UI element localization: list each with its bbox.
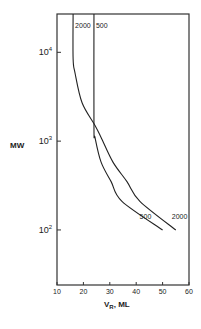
curve-top-label-500: 500 xyxy=(96,22,108,29)
x-tick-label: 50 xyxy=(159,288,167,295)
x-axis-label-suffix: , ML xyxy=(114,300,130,309)
x-axis-label: VR, ML xyxy=(104,300,130,310)
chart: 102030405060 102103104 20002000500500 MW… xyxy=(0,0,201,329)
x-tick-label: 40 xyxy=(132,288,140,295)
y-axis: 102103104 xyxy=(39,46,61,235)
y-axis-label: MW xyxy=(10,141,25,150)
curve-end-label-2000: 2000 xyxy=(172,213,188,220)
y-tick-label: 102 xyxy=(39,224,53,235)
y-tick-label: 103 xyxy=(39,135,53,146)
x-tick-label: 10 xyxy=(53,288,61,295)
x-tick-label: 60 xyxy=(185,288,193,295)
x-axis: 102030405060 xyxy=(53,282,193,295)
x-tick-label: 20 xyxy=(80,288,88,295)
plot-frame xyxy=(57,14,189,285)
curve-top-label-2000: 2000 xyxy=(75,22,91,29)
y-tick-label: 104 xyxy=(39,46,53,57)
curve-end-label-500: 500 xyxy=(140,213,152,220)
curve-500 xyxy=(94,14,163,230)
curves xyxy=(73,14,176,230)
x-tick-label: 30 xyxy=(106,288,114,295)
curve-2000 xyxy=(73,14,176,230)
